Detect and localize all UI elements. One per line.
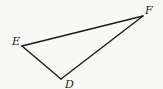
vertex-label-f: F (144, 4, 153, 17)
triangle-diagram: E F D (0, 0, 163, 89)
edge-de (22, 46, 61, 79)
edge-ef (22, 16, 143, 46)
vertex-label-e: E (11, 35, 20, 48)
vertex-label-d: D (64, 78, 74, 89)
